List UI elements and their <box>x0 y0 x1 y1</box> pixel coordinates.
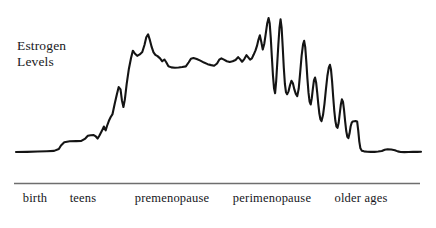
estrogen-level-curve <box>16 18 421 152</box>
estrogen-levels-figure: Estrogen Levels birth teens premenopause… <box>0 0 436 228</box>
x-label-teens: teens <box>70 189 97 207</box>
x-label-birth: birth <box>23 189 48 207</box>
plot-area <box>0 0 436 190</box>
estrogen-curve-svg <box>0 0 436 190</box>
x-label-perimenopause: perimenopause <box>233 189 311 207</box>
x-axis-label-group: birth teens premenopause perimenopause o… <box>0 189 436 213</box>
x-label-older-ages: older ages <box>334 189 387 207</box>
x-label-premenopause: premenopause <box>135 189 210 207</box>
